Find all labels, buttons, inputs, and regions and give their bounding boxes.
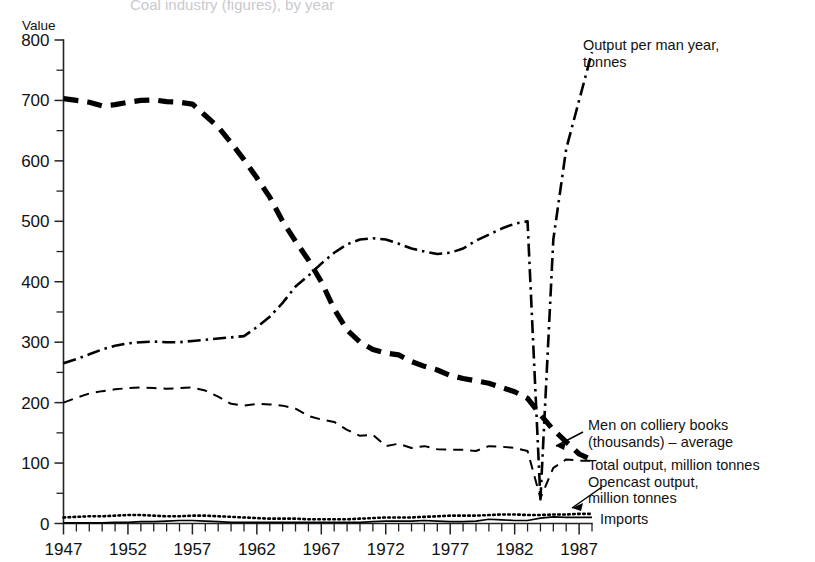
x-axis-tick-labels: 194719521957196219671972197719821987 xyxy=(45,540,598,559)
y-tick-label: 700 xyxy=(21,91,49,110)
annotation-opmy-line2: tonnes xyxy=(583,54,627,70)
x-tick-label: 1987 xyxy=(560,540,598,559)
annotation-opmy-line1: Output per man year, xyxy=(583,37,719,53)
y-tick-label: 600 xyxy=(21,152,49,171)
cropped-figure-title: Coal industry (figures), by year xyxy=(130,0,334,13)
y-tick-label: 100 xyxy=(21,454,49,473)
x-tick-label: 1957 xyxy=(173,540,211,559)
chart-axes xyxy=(64,40,593,524)
y-tick-label: 200 xyxy=(21,394,49,413)
x-axis-ticks xyxy=(64,524,593,535)
y-tick-label: 0 xyxy=(40,515,49,534)
annotation-opencast-line2: million tonnes xyxy=(588,490,677,506)
annotation-opencast-line1: Opencast output, xyxy=(588,474,698,490)
y-tick-label: 800 xyxy=(21,31,49,50)
y-tick-label: 500 xyxy=(21,212,49,231)
annotation-men-on-colliery-books: Men on colliery books (thousands) – aver… xyxy=(556,417,733,450)
y-axis-ticks xyxy=(55,40,64,524)
annotation-total-output-line1: Total output, million tonnes xyxy=(588,457,760,473)
x-tick-label: 1972 xyxy=(367,540,405,559)
annotation-men-line1: Men on colliery books xyxy=(588,417,728,433)
x-tick-label: 1952 xyxy=(109,540,147,559)
annotation-imports-line1: Imports xyxy=(600,511,648,527)
chart-canvas: Coal industry (figures), by year Value 0… xyxy=(0,0,815,562)
chart-annotations: Output per man year, tonnes Men on colli… xyxy=(556,37,760,527)
series-line-opencast-output xyxy=(64,514,593,519)
chart-figure: Coal industry (figures), by year Value 0… xyxy=(0,0,815,562)
annotation-output-per-man-year: Output per man year, tonnes xyxy=(583,37,719,70)
x-tick-label: 1977 xyxy=(431,540,469,559)
annotation-imports: Imports xyxy=(600,511,648,527)
annotation-opencast-output: Opencast output, million tonnes xyxy=(572,474,698,511)
annotation-men-line2: (thousands) – average xyxy=(588,434,733,450)
series-line-output-per-man-year xyxy=(64,52,593,499)
x-tick-label: 1947 xyxy=(45,540,83,559)
series-line-men-on-colliery-books xyxy=(64,99,593,460)
x-tick-label: 1967 xyxy=(302,540,340,559)
x-tick-label: 1962 xyxy=(238,540,276,559)
annotation-total-output: Total output, million tonnes xyxy=(588,457,760,473)
chart-series-layer xyxy=(64,52,593,523)
series-line-total-output xyxy=(64,388,593,499)
y-axis-tick-labels: 0100200300400500600700800 xyxy=(21,31,49,534)
x-tick-label: 1982 xyxy=(496,540,534,559)
y-tick-label: 300 xyxy=(21,333,49,352)
y-tick-label: 400 xyxy=(21,273,49,292)
